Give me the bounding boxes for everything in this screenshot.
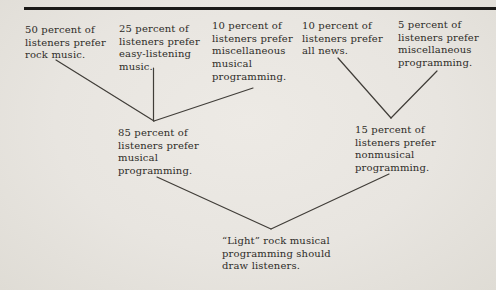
node-misc-programming: 5 percent of listeners prefer miscellane… [398, 19, 493, 70]
connector-nonmusical-to-conclusion [271, 174, 389, 229]
connector-misc-musical-to-musical [154, 88, 253, 121]
node-rock-music: 50 percent of listeners prefer rock musi… [25, 24, 120, 62]
connector-all-news-to-nonmusical [338, 58, 391, 118]
node-conclusion: “Light” rock musical programming should … [222, 235, 347, 273]
node-musical-programming: 85 percent of listeners prefer musical p… [118, 127, 213, 178]
node-all-news: 10 percent of listeners prefer all news. [302, 20, 397, 58]
node-easy-listening: 25 percent of listeners prefer easy-list… [119, 23, 214, 74]
connector-misc-programming-to-nonmusical [391, 71, 437, 118]
node-misc-musical: 10 percent of listeners prefer miscellan… [212, 20, 307, 84]
scanned-page: 50 percent of listeners prefer rock musi… [0, 0, 496, 290]
connector-musical-to-conclusion [157, 177, 271, 229]
node-nonmusical-programming: 15 percent of listeners prefer nonmusica… [355, 124, 450, 175]
